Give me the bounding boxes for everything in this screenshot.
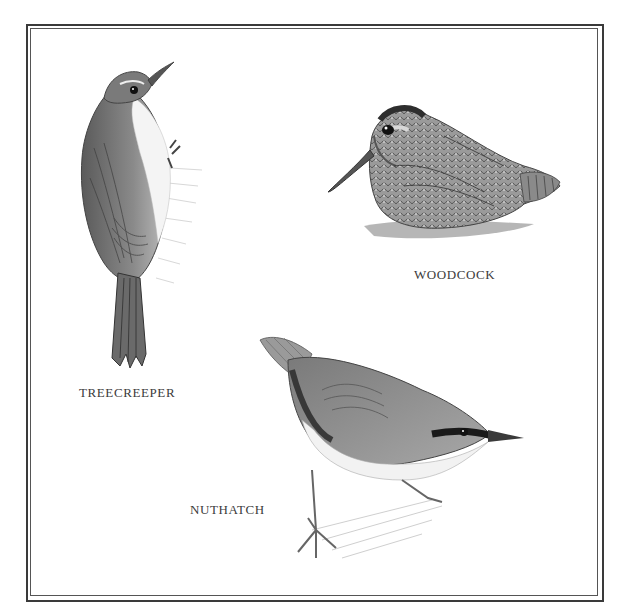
caption-nuthatch: NUTHATCH [190,502,265,518]
nuthatch-illustration [252,330,527,575]
caption-treecreeper: TREECREEPER [79,385,175,401]
treecreeper-illustration [74,58,214,373]
woodcock-illustration [324,96,568,246]
caption-woodcock: WOODCOCK [414,267,495,283]
